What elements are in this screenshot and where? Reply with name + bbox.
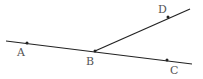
point-b bbox=[94, 50, 97, 53]
label-b: B bbox=[86, 55, 94, 68]
line-ac bbox=[6, 41, 192, 64]
ray-bd bbox=[95, 9, 190, 51]
point-a bbox=[26, 42, 29, 45]
point-c bbox=[166, 59, 169, 62]
label-a: A bbox=[16, 46, 26, 59]
geometry-diagram: A B C D bbox=[0, 0, 203, 79]
label-c: C bbox=[170, 64, 178, 77]
diagram-svg: A B C D bbox=[0, 0, 203, 79]
label-d: D bbox=[158, 3, 167, 16]
point-d bbox=[167, 16, 170, 19]
